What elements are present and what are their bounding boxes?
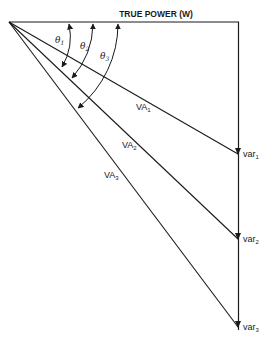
theta3-label: θ3 (100, 51, 109, 62)
var1-arrowhead-icon (235, 148, 241, 155)
power-triangle-diagram: TRUE POWER (W) θ1 θ2 θ3 VA1 VA2 VA3 var1… (0, 0, 269, 343)
va3-label: VA3 (104, 170, 119, 181)
var3-label: var3 (243, 322, 260, 333)
var1-label: var1 (243, 149, 260, 160)
va1-line (9, 22, 238, 154)
theta1-label: θ1 (55, 35, 64, 46)
theta3-arc (78, 24, 118, 108)
theta2-label: θ2 (80, 41, 89, 52)
theta2-arc (72, 24, 93, 78)
va2-line (9, 22, 238, 239)
true-power-label: TRUE POWER (W) (119, 9, 193, 19)
va3-line (9, 22, 238, 327)
va1-label: VA1 (136, 102, 151, 113)
var2-label: var2 (243, 234, 260, 245)
